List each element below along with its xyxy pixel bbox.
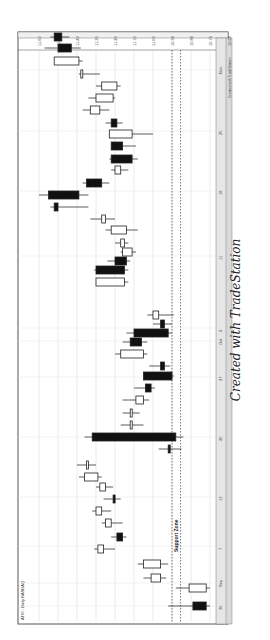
bullish-candle <box>96 278 125 286</box>
bullish-candle <box>87 461 89 469</box>
bullish-candle <box>96 94 113 102</box>
bullish-candle <box>121 350 144 358</box>
price-tick-label: 10.70 <box>208 35 213 46</box>
bullish-candle <box>153 311 159 319</box>
bearish-candle <box>115 257 126 265</box>
bearish-candle <box>130 338 141 346</box>
support-zone-label: Support Zone <box>173 519 179 552</box>
date-tick-label: Oct <box>218 338 223 345</box>
bullish-candle <box>85 473 98 481</box>
bullish-candle <box>189 584 206 592</box>
price-tick-label: 11.20 <box>113 36 118 46</box>
bullish-candle <box>106 519 112 527</box>
bearish-candle <box>111 155 132 163</box>
bullish-candle <box>100 483 106 491</box>
bullish-candle <box>136 396 144 404</box>
bullish-candle <box>144 560 161 568</box>
price-tick-label: 10.80 <box>189 35 194 46</box>
bearish-candle <box>87 179 102 187</box>
bullish-candle <box>109 130 132 138</box>
date-tick-label: 25 <box>218 130 223 135</box>
bearish-candle <box>54 203 58 211</box>
bullish-candle <box>121 239 125 247</box>
bullish-candle <box>81 70 83 78</box>
bullish-candle <box>54 57 79 65</box>
bearish-candle <box>111 119 117 127</box>
bullish-candle <box>111 226 126 234</box>
chart-watermark: Created with TradeStation <box>228 57 232 98</box>
bullish-candle <box>96 507 102 515</box>
bearish-candle <box>117 533 123 541</box>
bullish-candle <box>102 215 106 223</box>
price-tick-label: 11.10 <box>132 36 137 46</box>
date-tick-label: 18 <box>218 190 223 195</box>
bearish-candle <box>168 445 170 453</box>
bullish-candle <box>102 82 117 90</box>
bullish-candle <box>90 106 100 114</box>
bearish-candle <box>113 495 115 503</box>
date-tick-label: 30 <box>218 605 223 610</box>
tradestation-credit: Created with TradeStation <box>229 239 243 402</box>
bullish-candle <box>151 574 161 582</box>
date-tick-label: Nov <box>218 67 223 74</box>
bearish-candle <box>58 44 71 52</box>
price-axis-strip <box>18 32 228 38</box>
bearish-candle <box>144 372 173 380</box>
bearish-candle <box>145 384 151 392</box>
bullish-candle <box>130 409 132 417</box>
bearish-candle <box>54 33 62 41</box>
price-tick-label: 11.30 <box>94 36 99 46</box>
bullish-candle <box>130 421 132 429</box>
date-tick-label: 20 <box>218 436 223 441</box>
date-tick-label: 27 <box>218 376 223 381</box>
chart-title: ATVI - Daily NASDAQ <box>20 581 25 620</box>
bearish-candle <box>161 362 165 370</box>
bearish-candle <box>111 142 122 150</box>
bearish-candle <box>96 266 125 274</box>
bearish-candle <box>193 602 206 610</box>
bearish-candle <box>49 191 79 199</box>
price-tick-label: 10.90 <box>170 35 175 46</box>
date-tick-label: 13 <box>218 496 223 501</box>
price-tick-label: 11.40 <box>75 36 80 46</box>
bearish-candle <box>134 329 168 337</box>
bearish-candle <box>92 433 176 441</box>
bullish-candle <box>123 248 133 256</box>
bullish-candle <box>115 166 121 174</box>
date-tick-label: Sep <box>218 579 223 587</box>
price-tick-label: 11.60 <box>37 36 42 46</box>
price-tick-label: 11.00 <box>151 36 156 46</box>
bullish-candle <box>98 545 104 553</box>
price-tick-label: 10.60 <box>227 35 232 46</box>
bearish-candle <box>161 320 165 328</box>
